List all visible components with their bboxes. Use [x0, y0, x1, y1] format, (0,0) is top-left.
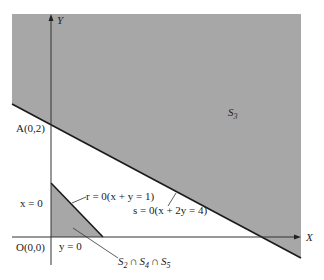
x-axis-label: X — [305, 231, 314, 243]
intersection-label: S2∩S4∩S5 — [118, 255, 170, 270]
feasible-region-diagram: Y X A(0,2) O(0,0) x = 0 y = 0 r = 0(x + … — [0, 0, 324, 280]
x-zero-label: x = 0 — [20, 197, 43, 209]
r-label-leader — [72, 197, 86, 203]
r-line-label: r = 0(x + y = 1) — [86, 190, 154, 203]
point-a-label: A(0,2) — [16, 122, 45, 135]
diagram-canvas: Y X A(0,2) O(0,0) x = 0 y = 0 r = 0(x + … — [0, 0, 324, 280]
y-zero-label: y = 0 — [59, 240, 82, 252]
origin-label: O(0,0) — [16, 241, 45, 254]
s-line-label: s = 0(x + 2y = 4) — [133, 204, 208, 217]
